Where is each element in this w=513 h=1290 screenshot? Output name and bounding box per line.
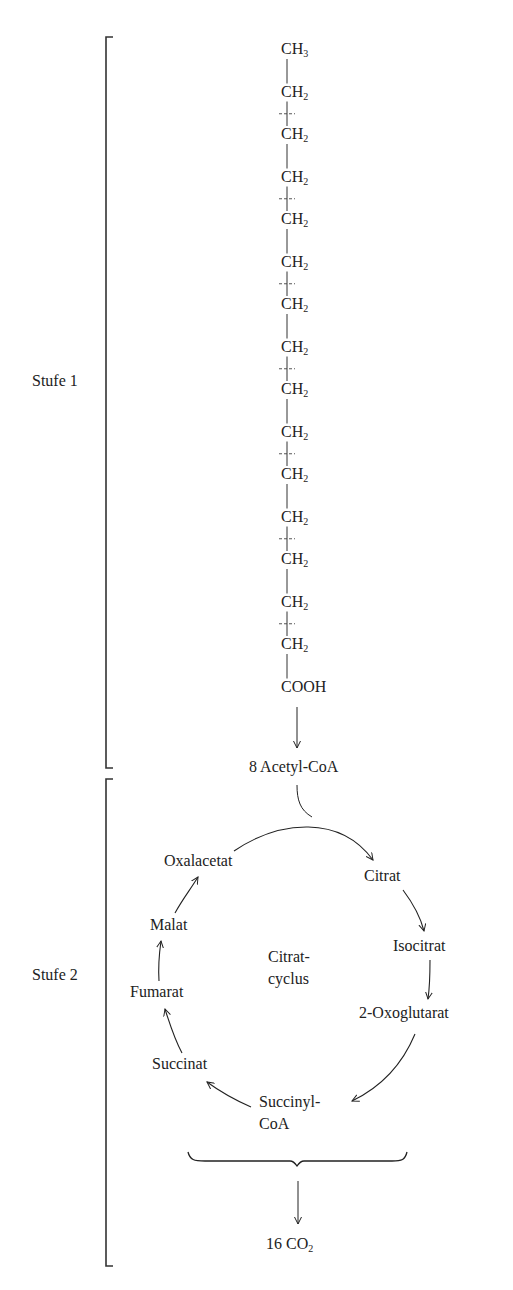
acetyl-entry-line <box>297 785 312 817</box>
diagram-lines <box>0 0 513 1290</box>
arrow-oxoglutarat-succinyl <box>352 1034 415 1101</box>
stage-1-bracket <box>106 37 113 768</box>
arrow-malat-oxalacetat <box>175 877 198 913</box>
arrow-citrat-isocitrat <box>403 890 424 931</box>
chain-bonds <box>279 59 295 679</box>
arrow-fumarat-malat <box>159 941 161 981</box>
arrow-isocitrat-oxoglutarat <box>428 960 430 999</box>
summary-brace <box>188 1152 407 1166</box>
arrow-succinat-fumarat <box>165 1009 182 1053</box>
arrow-succinyl-succinat <box>207 1082 251 1107</box>
arrow-oxalacetat-citrat <box>234 827 373 860</box>
stage-2-bracket <box>106 779 113 1266</box>
